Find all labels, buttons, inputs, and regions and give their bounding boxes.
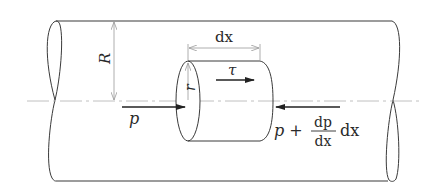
element-length-dimension: dx — [188, 28, 260, 60]
shear-stress-label: τ — [228, 61, 237, 79]
shear-stress: τ — [216, 61, 254, 80]
fraction-numerator: dp — [314, 114, 332, 130]
downstream-pressure: p + dp dx dx — [274, 107, 359, 149]
pipe-radius-dimension: R — [96, 22, 114, 100]
fraction-denominator: dx — [315, 133, 332, 149]
upstream-pressure-label: p — [129, 109, 139, 128]
downstream-pressure-suffix: dx — [340, 121, 359, 140]
element-length-label: dx — [215, 28, 234, 46]
upstream-pressure: p — [122, 107, 185, 128]
pipe-radius-label: R — [96, 53, 114, 65]
downstream-pressure-prefix: p + — [274, 121, 303, 140]
pipe-flow-diagram: R dx r τ p p + dp — [0, 0, 442, 194]
